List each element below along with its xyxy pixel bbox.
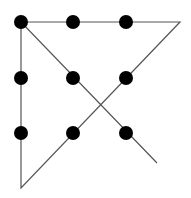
nine-dots-diagram [0, 0, 191, 198]
dot-7 [14, 126, 28, 140]
solution-path [21, 22, 180, 188]
dot-3 [119, 15, 133, 29]
dot-8 [66, 126, 80, 140]
dot-6 [119, 71, 133, 85]
dot-2 [66, 15, 80, 29]
dot-4 [14, 71, 28, 85]
dot-1 [14, 15, 28, 29]
dot-5 [66, 71, 80, 85]
dot-9 [119, 126, 133, 140]
solution-line [21, 22, 180, 188]
